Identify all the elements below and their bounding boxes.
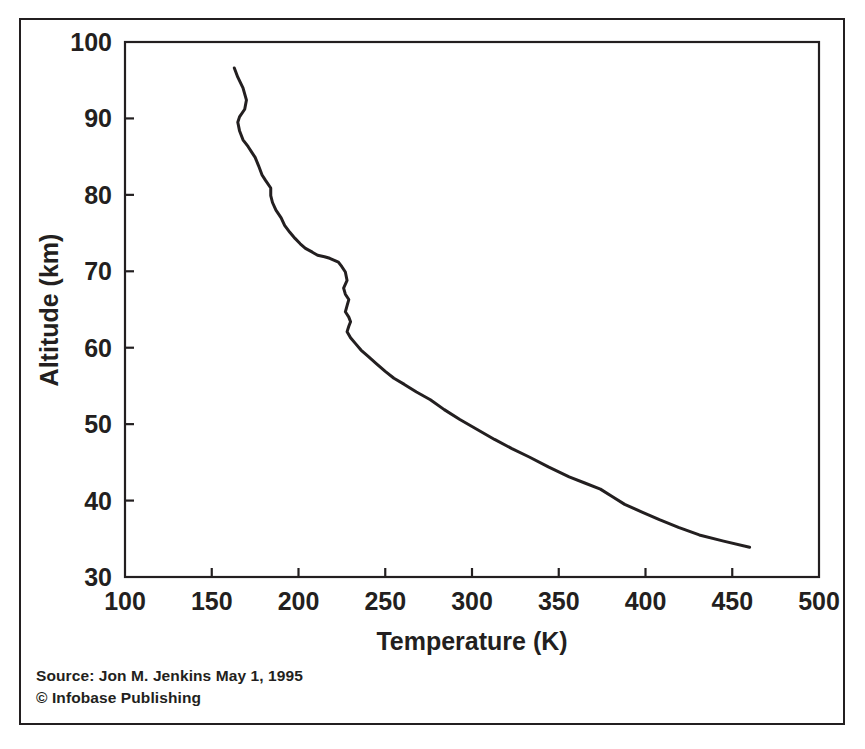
plot-area-border: [125, 42, 819, 577]
temperature-profile-line: [234, 68, 749, 547]
x-axis-ticks: [212, 568, 733, 577]
y-tick-label: 60: [84, 334, 112, 362]
copyright-line: © Infobase Publishing: [36, 687, 303, 709]
temperature-altitude-chart: 100150200250300350400450500 304050607080…: [0, 0, 865, 749]
x-tick-label: 400: [625, 587, 667, 615]
y-axis-label: Altitude (km): [35, 234, 63, 387]
y-axis-ticks: [125, 118, 134, 500]
x-tick-label: 300: [451, 587, 493, 615]
figure-root: 100150200250300350400450500 304050607080…: [0, 0, 865, 749]
x-tick-label: 150: [191, 587, 233, 615]
y-tick-label: 100: [70, 28, 112, 56]
x-tick-label: 350: [538, 587, 580, 615]
x-axis-tick-labels: 100150200250300350400450500: [104, 587, 840, 615]
x-tick-label: 450: [711, 587, 753, 615]
y-tick-label: 90: [84, 104, 112, 132]
y-tick-label: 50: [84, 410, 112, 438]
x-tick-label: 100: [104, 587, 146, 615]
y-tick-label: 80: [84, 181, 112, 209]
x-tick-label: 500: [798, 587, 840, 615]
y-tick-label: 30: [84, 563, 112, 591]
x-tick-label: 200: [278, 587, 320, 615]
y-tick-label: 70: [84, 257, 112, 285]
x-tick-label: 250: [364, 587, 406, 615]
source-line: Source: Jon M. Jenkins May 1, 1995: [36, 665, 303, 687]
x-axis-label: Temperature (K): [376, 627, 567, 655]
source-credit-block: Source: Jon M. Jenkins May 1, 1995 © Inf…: [36, 665, 303, 709]
y-tick-label: 40: [84, 487, 112, 515]
y-axis-tick-labels: 30405060708090100: [70, 28, 112, 591]
